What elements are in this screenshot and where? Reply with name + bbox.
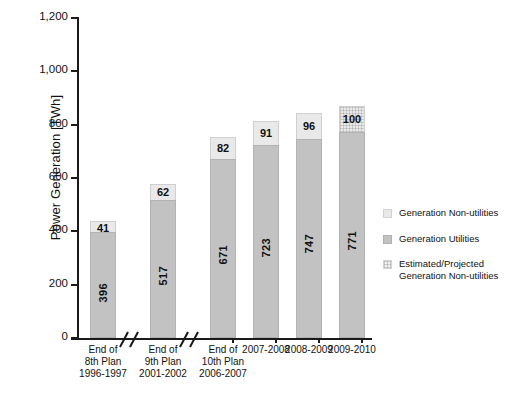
bar-value-utilities: 771 bbox=[346, 231, 358, 251]
x-axis-line bbox=[71, 338, 372, 340]
x-axis-label-2009-2010: 2009-2010 bbox=[315, 344, 389, 356]
plot-area: 1,2001,0008006004002000 4139662517826719… bbox=[77, 18, 372, 338]
bar-end-10th-plan[interactable]: 82671 bbox=[210, 137, 236, 338]
legend-item-estimated[interactable]: Estimated/Projected Generation Non-utili… bbox=[383, 258, 515, 281]
x-axis-tick-mark bbox=[232, 338, 234, 343]
bar-value-utilities: 396 bbox=[97, 283, 109, 303]
bar-value-utilities: 671 bbox=[217, 245, 229, 265]
y-axis-tick-mark bbox=[71, 177, 79, 179]
bar-value-nonutilities: 82 bbox=[217, 142, 229, 154]
bar-segment-nonutilities[interactable]: 91 bbox=[253, 121, 279, 145]
bar-end-9th-plan[interactable]: 62517 bbox=[150, 184, 176, 338]
bar-segment-nonutilities[interactable]: 62 bbox=[150, 184, 176, 201]
x-axis-tick-mark bbox=[361, 338, 363, 343]
legend-item-nonutilities[interactable]: Generation Non-utilities bbox=[383, 207, 515, 219]
bar-2007-2008[interactable]: 91723 bbox=[253, 121, 279, 338]
y-axis-tick-mark bbox=[71, 230, 79, 232]
bar-value-nonutilities: 96 bbox=[303, 120, 315, 132]
legend-label: Generation Utilities bbox=[399, 233, 479, 245]
y-axis-tick-mark bbox=[71, 124, 79, 126]
bar-value-utilities: 723 bbox=[260, 238, 272, 258]
y-axis-tick-label: 400 bbox=[49, 223, 68, 235]
bar-segment-utilities[interactable]: 747 bbox=[296, 139, 322, 338]
y-axis-tick-mark bbox=[71, 17, 79, 19]
bar-value-utilities: 747 bbox=[303, 234, 315, 254]
bar-segment-utilities[interactable]: 517 bbox=[150, 200, 176, 338]
x-axis-label-line: 2009-2010 bbox=[315, 344, 389, 356]
legend-swatch-utilities bbox=[383, 235, 392, 244]
x-axis-label-line: 10th Plan bbox=[186, 356, 260, 368]
bar-segment-nonutilities[interactable]: 96 bbox=[296, 113, 322, 139]
bar-segment-utilities[interactable]: 771 bbox=[339, 132, 365, 338]
bar-end-8th-plan[interactable]: 41396 bbox=[90, 221, 116, 338]
legend-swatch-estimated bbox=[383, 260, 392, 269]
y-axis-tick-label: 800 bbox=[49, 117, 68, 129]
legend-swatch-nonutilities bbox=[383, 209, 392, 218]
x-axis-tick-mark bbox=[318, 338, 320, 343]
bar-value-nonutilities: 100 bbox=[343, 113, 361, 125]
bar-segment-nonutilities[interactable]: 82 bbox=[210, 137, 236, 159]
legend-label: Estimated/Projected Generation Non-utili… bbox=[399, 258, 515, 281]
bar-segment-utilities[interactable]: 671 bbox=[210, 159, 236, 338]
bar-2008-2009[interactable]: 96747 bbox=[296, 113, 322, 338]
y-axis-tick-label: 1,200 bbox=[39, 10, 68, 22]
bar-value-nonutilities: 62 bbox=[157, 186, 169, 198]
legend-label: Generation Non-utilities bbox=[399, 207, 498, 219]
chart-figure: Power Generation [TWh] 1,2001,0008006004… bbox=[0, 0, 518, 401]
bar-segment-nonutilities[interactable]: 41 bbox=[90, 221, 116, 232]
y-axis-tick-label: 200 bbox=[49, 277, 68, 289]
bar-value-utilities: 517 bbox=[157, 266, 169, 286]
y-axis-tick-label: 0 bbox=[62, 330, 68, 342]
bar-segment-utilities[interactable]: 723 bbox=[253, 145, 279, 338]
bar-2009-2010[interactable]: 100771 bbox=[339, 106, 365, 338]
bar-segment-estimated-nonutilities[interactable]: 100 bbox=[339, 106, 365, 133]
y-axis-tick-mark bbox=[71, 284, 79, 286]
y-axis-tick-label: 600 bbox=[49, 170, 68, 182]
y-axis-tick-label: 1,000 bbox=[39, 63, 68, 75]
chart-legend: Generation Non-utilitiesGeneration Utili… bbox=[383, 207, 515, 295]
y-axis-tick-mark bbox=[71, 337, 79, 339]
x-axis-tick-mark bbox=[275, 338, 277, 343]
legend-item-utilities[interactable]: Generation Utilities bbox=[383, 233, 515, 245]
x-axis-label-line: 2006-2007 bbox=[186, 368, 260, 380]
bar-segment-utilities[interactable]: 396 bbox=[90, 232, 116, 338]
bar-value-nonutilities: 91 bbox=[260, 127, 272, 139]
y-axis-tick-mark bbox=[71, 70, 79, 72]
